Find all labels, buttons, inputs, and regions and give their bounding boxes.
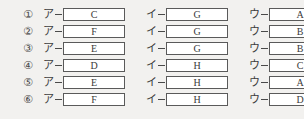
answer-box[interactable]: D — [63, 59, 125, 72]
blank-label: イ — [146, 26, 157, 37]
blank-label: イ — [146, 60, 157, 71]
blank-label: イ — [146, 94, 157, 105]
choice-number: ④ — [20, 60, 36, 71]
answer-box[interactable]: H — [166, 59, 228, 72]
blank-pair: アD — [43, 59, 125, 72]
blank-pair: ウA — [249, 76, 304, 89]
blank-pair: アE — [43, 42, 125, 55]
blank-label: イ — [146, 77, 157, 88]
answer-box[interactable]: C — [269, 59, 304, 72]
blank-label: ウ — [249, 77, 260, 88]
blank-pair: イG — [146, 25, 228, 38]
blank-pair: イH — [146, 93, 228, 106]
blank-label: ウ — [249, 26, 260, 37]
choice-row[interactable]: ⑤アEイHウA — [0, 74, 304, 91]
answer-box[interactable]: F — [63, 93, 125, 106]
blank-label: ウ — [249, 43, 260, 54]
connector-dash-icon — [55, 48, 62, 49]
blank-label: ウ — [249, 94, 260, 105]
blank-pair: イH — [146, 76, 228, 89]
choice-number: ② — [20, 26, 36, 37]
blank-pair: ウA — [249, 8, 304, 21]
blank-pair: ウC — [249, 59, 304, 72]
connector-dash-icon — [261, 48, 268, 49]
answer-box[interactable]: H — [166, 93, 228, 106]
blank-pair: アF — [43, 93, 125, 106]
choice-number: ① — [20, 9, 36, 20]
answer-box[interactable]: B — [269, 25, 304, 38]
answer-box[interactable]: A — [269, 8, 304, 21]
answer-box[interactable]: B — [269, 42, 304, 55]
connector-dash-icon — [261, 82, 268, 83]
blank-pair: アE — [43, 76, 125, 89]
connector-dash-icon — [158, 31, 165, 32]
connector-dash-icon — [261, 65, 268, 66]
blank-pair: アF — [43, 25, 125, 38]
choice-row[interactable]: ⑥アFイHウD — [0, 91, 304, 108]
answer-choice-grid: ①アCイGウA②アFイGウB③アEイGウB④アDイHウC⑤アEイHウA⑥アFイH… — [0, 6, 304, 119]
blank-label: イ — [146, 9, 157, 20]
choice-row[interactable]: ④アDイHウC — [0, 57, 304, 74]
connector-dash-icon — [158, 99, 165, 100]
blank-pair: ウB — [249, 42, 304, 55]
blank-pair: イG — [146, 8, 228, 21]
choice-number: ⑤ — [20, 77, 36, 88]
blank-label: ア — [43, 60, 54, 71]
choice-row[interactable]: ①アCイGウA — [0, 6, 304, 23]
connector-dash-icon — [158, 82, 165, 83]
blank-label: ア — [43, 26, 54, 37]
answer-box[interactable]: G — [166, 8, 228, 21]
connector-dash-icon — [261, 14, 268, 15]
blank-pair: アC — [43, 8, 125, 21]
choice-number: ③ — [20, 43, 36, 54]
connector-dash-icon — [261, 99, 268, 100]
blank-label: ア — [43, 9, 54, 20]
blank-label: ア — [43, 43, 54, 54]
answer-box[interactable]: C — [63, 8, 125, 21]
blank-pair: イH — [146, 59, 228, 72]
blank-label: ア — [43, 77, 54, 88]
connector-dash-icon — [158, 48, 165, 49]
blank-label: ア — [43, 94, 54, 105]
blank-label: ウ — [249, 60, 260, 71]
connector-dash-icon — [261, 31, 268, 32]
choice-number: ⑥ — [20, 94, 36, 105]
answer-box[interactable]: G — [166, 25, 228, 38]
connector-dash-icon — [55, 31, 62, 32]
choice-row[interactable]: ②アFイGウB — [0, 23, 304, 40]
connector-dash-icon — [158, 65, 165, 66]
blank-pair: ウB — [249, 25, 304, 38]
blank-pair: ウD — [249, 93, 304, 106]
answer-box[interactable]: A — [269, 76, 304, 89]
blank-label: イ — [146, 43, 157, 54]
answer-box[interactable]: E — [63, 76, 125, 89]
connector-dash-icon — [55, 99, 62, 100]
choice-row[interactable]: ③アEイGウB — [0, 40, 304, 57]
connector-dash-icon — [55, 65, 62, 66]
answer-box[interactable]: F — [63, 25, 125, 38]
connector-dash-icon — [55, 14, 62, 15]
connector-dash-icon — [158, 14, 165, 15]
connector-dash-icon — [55, 82, 62, 83]
blank-pair: イG — [146, 42, 228, 55]
answer-box[interactable]: D — [269, 93, 304, 106]
blank-label: ウ — [249, 9, 260, 20]
answer-box[interactable]: G — [166, 42, 228, 55]
answer-box[interactable]: H — [166, 76, 228, 89]
answer-box[interactable]: E — [63, 42, 125, 55]
